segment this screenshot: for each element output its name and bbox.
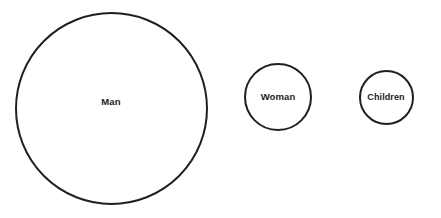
bubble-woman-label: Woman xyxy=(261,92,296,102)
bubble-woman[interactable]: Woman xyxy=(244,63,312,131)
bubble-children-label: Children xyxy=(367,93,404,102)
bubble-man-label: Man xyxy=(101,97,120,107)
bubble-children[interactable]: Children xyxy=(359,70,414,125)
bubble-man[interactable]: Man xyxy=(15,12,208,205)
diagram-canvas: Man Woman Children xyxy=(0,0,441,218)
